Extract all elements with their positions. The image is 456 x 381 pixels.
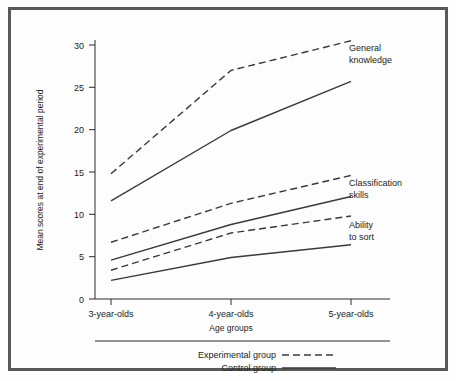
y-tick-label-30: 30 [74,41,84,51]
data-series-layer [111,41,351,281]
x-tick-label-5-year-olds: 5-year-olds [328,309,374,319]
y-tick-label-20: 20 [74,125,84,135]
x-axis-title: Age groups [209,323,252,333]
annotation-general-knowledge: General knowledge [349,43,392,65]
series-line-3 [111,197,351,260]
y-tick-labels: 0 5 10 15 20 25 30 [74,41,84,305]
annotation-classification-line1: Classification [349,178,402,188]
series-line-5 [111,245,351,281]
annotation-classification-line2: skills [349,190,369,200]
legend-label-experimental: Experimental group [198,350,276,360]
y-tick-label-25: 25 [74,83,84,93]
chart-figure: 0 5 10 15 20 25 30 Mean scores at end of… [0,0,456,381]
y-tick-label-15: 15 [74,168,84,178]
series-line-0 [111,41,351,174]
x-tick-marks [111,299,351,305]
annotation-general-knowledge-line1: General [349,43,381,53]
x-tick-labels: 3-year-olds 4-year-olds 5-year-olds [88,309,374,319]
annotation-classification-skills: Classification skills [349,178,402,200]
annotation-general-knowledge-line2: knowledge [349,55,392,65]
series-line-1 [111,81,351,200]
x-tick-label-4-year-olds: 4-year-olds [208,309,254,319]
series-line-2 [111,175,351,242]
annotation-ability-line2: to sort [349,232,375,242]
line-chart: 0 5 10 15 20 25 30 Mean scores at end of… [0,0,456,381]
axes-group [95,40,390,299]
legend-label-control: Control group [221,363,276,373]
y-tick-label-10: 10 [74,210,84,220]
y-tick-marks [89,45,95,299]
x-tick-label-3-year-olds: 3-year-olds [88,309,134,319]
y-tick-label-5: 5 [79,252,84,262]
legend: Experimental group Control group [198,350,336,373]
y-axis-title: Mean scores at end of experimental perio… [35,89,45,250]
y-tick-label-0: 0 [79,295,84,305]
annotation-ability-line1: Ability [349,220,374,230]
annotation-ability-to-sort: Ability to sort [349,220,375,242]
